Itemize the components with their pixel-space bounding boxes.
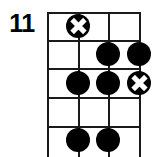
- fret-line-3: [47, 68, 139, 70]
- marker-dot-string3-fret2[interactable]: [96, 42, 120, 66]
- fret-position-label: 11: [4, 10, 40, 36]
- fretboard-grid: [47, 12, 139, 157]
- fret-line-1: [47, 12, 139, 14]
- fret-line-5: [47, 126, 139, 128]
- fret-line-2: [47, 40, 139, 42]
- chord-diagram: 11: [0, 0, 160, 157]
- marker-dot-string4-fret2[interactable]: [127, 42, 151, 66]
- marker-x-string2-fret1[interactable]: [66, 14, 90, 38]
- marker-dot-string2-fret3[interactable]: [66, 71, 90, 95]
- marker-dot-string2-fret5[interactable]: [66, 128, 90, 152]
- string-line-1: [47, 12, 49, 157]
- marker-dot-string3-fret3[interactable]: [96, 71, 120, 95]
- marker-x-string4-fret3[interactable]: [127, 71, 151, 95]
- marker-dot-string3-fret5[interactable]: [96, 128, 120, 152]
- fret-line-4: [47, 97, 139, 99]
